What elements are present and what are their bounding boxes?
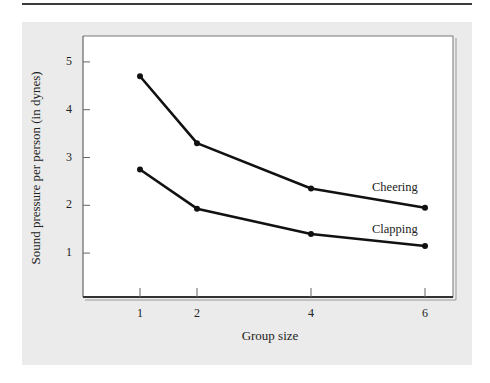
data-point — [194, 140, 200, 146]
data-point — [137, 166, 143, 172]
y-tick-label: 1 — [61, 245, 77, 260]
y-tick-label: 2 — [61, 197, 77, 212]
y-tick-label: 4 — [61, 102, 77, 117]
data-point — [308, 186, 314, 192]
data-point — [422, 205, 428, 211]
series-label-clapping: Clapping — [372, 222, 418, 237]
data-point — [308, 231, 314, 237]
y-axis-label: Sound pressure per person (in dynes) — [28, 71, 44, 264]
x-tick-label: 6 — [417, 306, 433, 321]
data-point — [422, 243, 428, 249]
x-axis-label: Group size — [210, 328, 330, 344]
data-point — [137, 73, 143, 79]
x-tick-label: 2 — [189, 306, 205, 321]
x-tick-label: 1 — [132, 306, 148, 321]
y-tick-label: 5 — [61, 54, 77, 69]
series-label-cheering: Cheering — [372, 180, 418, 195]
y-tick-label: 3 — [61, 150, 77, 165]
data-point — [194, 206, 200, 212]
x-tick-label: 4 — [303, 306, 319, 321]
